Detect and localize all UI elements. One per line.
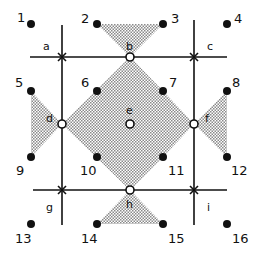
label-9: 9 [16,163,24,178]
point-10 [93,153,101,161]
label-c: c [207,40,213,53]
label-13: 13 [15,231,32,246]
label-5: 5 [15,75,23,90]
open-node-b [126,53,134,61]
label-a: a [43,40,50,53]
label-2: 2 [81,11,89,26]
label-10: 10 [80,163,97,178]
point-6 [93,87,101,95]
point-16 [223,220,231,228]
label-1: 1 [17,10,25,25]
label-4: 4 [234,11,242,26]
point-12 [223,153,231,161]
label-e: e [126,104,133,117]
label-14: 14 [81,231,98,246]
label-b: b [126,40,133,53]
label-d: d [46,112,53,125]
label-11: 11 [168,163,185,178]
lattice-diagram: 1 2 3 4 5 6 7 8 9 10 11 12 13 14 15 16 a… [0,0,260,258]
right-triangle [194,91,227,157]
point-5 [27,87,35,95]
point-11 [159,153,167,161]
point-9 [27,153,35,161]
label-8: 8 [232,75,240,90]
point-13 [27,220,35,228]
open-node-e [126,120,134,128]
label-7: 7 [169,75,177,90]
point-14 [93,220,101,228]
point-2 [93,20,101,28]
diagram-canvas: 1 2 3 4 5 6 7 8 9 10 11 12 13 14 15 16 a… [0,0,260,258]
point-1 [27,20,35,28]
open-node-d [58,120,66,128]
label-16: 16 [232,231,249,246]
point-4 [223,20,231,28]
label-3: 3 [171,11,179,26]
point-3 [159,20,167,28]
point-8 [223,87,231,95]
open-node-h [126,186,134,194]
label-6: 6 [81,75,89,90]
label-15: 15 [168,231,185,246]
label-i: i [207,201,210,214]
point-7 [159,87,167,95]
label-12: 12 [231,163,248,178]
label-g: g [46,201,53,214]
point-15 [159,220,167,228]
open-node-f [190,120,198,128]
label-h: h [126,198,133,211]
